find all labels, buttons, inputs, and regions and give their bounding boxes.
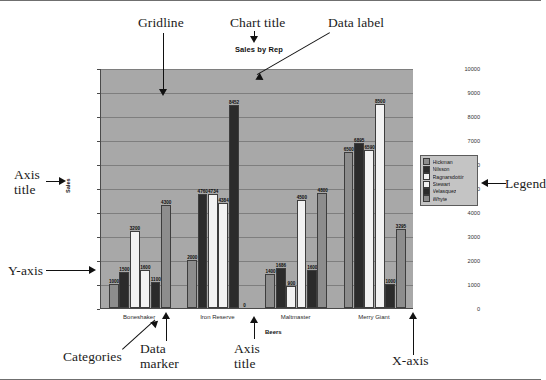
data-label: 1000 [385,279,395,284]
bar-nilsson-maltmaster[interactable] [276,268,286,308]
data-label: 2000 [187,255,197,260]
bar-velasquez-iron-reserve[interactable] [229,105,239,308]
legend[interactable]: HickmanNilssonRagnarsdottirStewartVelasq… [420,155,478,206]
y-axis-tick-mark [97,285,100,286]
arrowhead-y-axis [89,266,96,274]
annotation-data-marker: Data marker [140,341,179,371]
data-label: 1400 [265,269,275,274]
bar-velasquez-boneshaker[interactable] [151,282,161,308]
y-axis-tick-label: 0 [444,306,480,312]
bar-whyte-maltmaster[interactable] [317,193,327,308]
x-axis-title: Beers [265,329,282,335]
legend-item-ragnarsdottir[interactable]: Ragnarsdottir [423,173,474,180]
arrowhead-data-marker [162,312,170,319]
y-axis-tick-mark [97,117,100,118]
category-label-iron-reserve: Iron Reserve [200,314,234,320]
annotation-axis-title-x: Axis title [234,341,260,371]
legend-label: Whyte [433,196,448,202]
bar-hickman-iron-reserve[interactable] [187,260,197,308]
leader-x-axis [413,319,414,355]
leader-axis-title-y [46,181,60,182]
bar-stewart-merry-giant[interactable] [375,104,385,308]
data-label: 4734 [208,189,218,194]
data-label: 6500 [344,147,354,152]
gridline [101,69,413,70]
bar-whyte-boneshaker[interactable] [161,205,171,308]
y-axis-tick-mark [97,69,100,70]
data-label: 1600 [307,265,317,270]
legend-swatch-icon [423,173,430,180]
leader-gridline [163,33,164,89]
data-label: 1500 [119,267,129,272]
legend-swatch-icon [423,181,430,188]
y-axis-tick-label: 8000 [444,114,480,120]
bar-hickman-merry-giant[interactable] [344,152,354,308]
data-label: 4300 [161,200,171,205]
data-label: 1686 [276,263,286,268]
gridline [101,93,413,94]
legend-item-nilsson[interactable]: Nilsson [423,166,474,173]
arrowhead-x-axis [409,312,417,319]
data-label: 0 [243,303,246,308]
y-axis-tick-mark [97,165,100,166]
legend-swatch-icon [423,188,430,195]
legend-swatch-icon [423,158,430,165]
y-axis-tick-label: 4000 [444,210,480,216]
annotation-chart-title: Chart title [230,15,285,30]
category-label-maltmaster: Maltmaster [281,314,311,320]
bar-whyte-merry-giant[interactable] [396,229,406,308]
category-label-boneshaker: Boneshaker [123,314,155,320]
y-axis-tick-label: 3000 [444,234,480,240]
bar-stewart-iron-reserve[interactable] [218,203,228,308]
arrowhead-axis-title-x [250,316,258,323]
bar-velasquez-merry-giant[interactable] [385,284,395,308]
leader-data-marker [166,319,167,341]
plot-area: 1000150032001600110043002000476047344384… [100,69,413,309]
gridline [101,141,413,142]
y-axis-tick-mark [97,189,100,190]
data-label: 6590 [365,145,375,150]
bar-ragnarsdottir-merry-giant[interactable] [364,150,374,308]
leader-axis-title-x [254,323,255,339]
data-label: 3200 [130,226,140,231]
data-label: 4760 [198,189,208,194]
legend-label: Stewart [433,181,451,187]
arrowhead-chart-title [250,36,258,43]
bar-nilsson-iron-reserve[interactable] [198,194,208,308]
bar-velasquez-maltmaster[interactable] [307,270,317,308]
annotation-gridline: Gridline [138,15,184,30]
data-label: 1000 [109,279,119,284]
legend-item-velasquez[interactable]: Velasquez [423,188,474,195]
y-axis-tick-label: 10000 [444,66,480,72]
bar-nilsson-boneshaker[interactable] [119,272,129,308]
arrowhead-gridline [159,89,167,96]
y-axis-tick-mark [97,237,100,238]
bar-stewart-boneshaker[interactable] [140,270,150,308]
y-axis-tick-label: 2000 [444,258,480,264]
legend-swatch-icon [423,195,430,202]
bar-ragnarsdottir-iron-reserve[interactable] [208,194,218,308]
legend-label: Ragnarsdottir [433,174,464,180]
bar-stewart-maltmaster[interactable] [297,200,307,308]
y-axis-tick-mark [97,309,100,310]
y-axis-tick-mark [97,93,100,94]
y-axis-tick-label: 1000 [444,282,480,288]
bar-hickman-boneshaker[interactable] [109,284,119,308]
legend-item-whyte[interactable]: Whyte [423,195,474,202]
bar-ragnarsdottir-boneshaker[interactable] [130,231,140,308]
bar-hickman-maltmaster[interactable] [265,274,275,308]
legend-item-hickman[interactable]: Hickman [423,158,474,165]
y-axis-tick-mark [97,141,100,142]
bar-ragnarsdottir-maltmaster[interactable] [286,286,296,308]
y-axis-tick-label: 7000 [444,138,480,144]
gridline [101,117,413,118]
annotation-y-axis: Y-axis [8,263,43,278]
legend-swatch-icon [423,166,430,173]
data-label: 1600 [140,265,150,270]
legend-label: Velasquez [433,188,457,194]
legend-item-stewart[interactable]: Stewart [423,181,474,188]
bar-nilsson-merry-giant[interactable] [354,143,364,308]
data-label: 1100 [151,277,161,282]
annotation-x-axis: X-axis [392,353,429,368]
